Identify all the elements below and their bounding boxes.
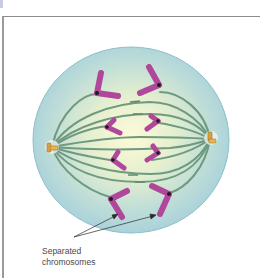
centrosome-left [45,140,59,154]
separated-chromosomes-label: Separated chromosomes [42,246,95,267]
label-line-2: chromosomes [42,257,95,268]
label-line-1: Separated [42,246,95,257]
centrosome-right [204,131,218,145]
